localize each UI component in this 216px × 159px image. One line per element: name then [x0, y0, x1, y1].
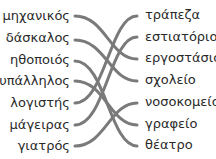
right-item: γραφείο — [145, 116, 197, 132]
left-item: δάσκαλος — [6, 30, 70, 46]
right-item: θέατρο — [145, 137, 193, 153]
right-item: νοσοκομείο — [145, 94, 216, 110]
right-item: εστιατόριο — [145, 29, 216, 45]
matching-exercise: μηχανικός δάσκαλος ηθοποιός υπάλληλος λο… — [0, 0, 216, 159]
left-item: υπάλληλος — [0, 73, 70, 89]
right-item: εργοστάσιο — [145, 50, 216, 66]
right-item: σχολείο — [145, 72, 196, 88]
left-item: μάγειρας — [10, 117, 70, 133]
left-item: μηχανικός — [3, 8, 71, 24]
line-mixanikos-ergostasio — [75, 16, 137, 59]
right-item: τράπεζα — [145, 7, 200, 23]
left-item: λογιστής — [10, 95, 70, 111]
left-item: ηθοποιός — [10, 52, 70, 68]
left-item: γιατρός — [18, 138, 70, 154]
line-logistis-trapeza — [75, 16, 137, 103]
line-mageiras-estiatorio — [75, 37, 137, 125]
